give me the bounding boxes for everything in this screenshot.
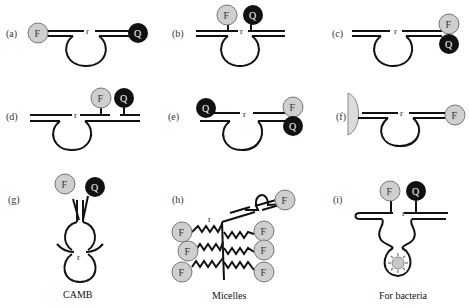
ribo-r: r (74, 110, 77, 120)
fluorophore-f: F (91, 88, 111, 108)
fluorophore-f: F (172, 262, 192, 282)
caption: Micelles (212, 290, 247, 301)
panel-h: (h) r F F F F F F F Micelles (172, 190, 295, 301)
ribo-r: r (394, 26, 397, 36)
panel-b: (b) r F Q (172, 5, 285, 66)
fluorophore-f: F (178, 241, 198, 261)
ribo-r: r (86, 26, 89, 36)
svg-text:F: F (35, 28, 41, 39)
fluorophore-f: F (55, 174, 75, 194)
quencher-q-left: Q (196, 98, 216, 118)
svg-text:F: F (185, 246, 191, 257)
svg-text:F: F (282, 195, 288, 206)
quencher-q: Q (85, 177, 105, 197)
ribo-r: r (243, 109, 246, 119)
panel-a: (a) r F Q (6, 23, 148, 66)
ribo-r: r (77, 252, 80, 262)
svg-text:F: F (224, 10, 230, 21)
panel-label: (h) (172, 194, 184, 206)
panel-g: (g) r F Q CAMB (8, 174, 105, 300)
panel-label: (c) (332, 28, 343, 40)
bacterium-icon (388, 253, 408, 273)
molecular-beacon-diagram: (a) r F Q (b) r F Q (c) r F Q (0, 0, 469, 308)
fluorophore-f: F (380, 181, 400, 201)
quencher-q-right: Q (283, 116, 303, 136)
caption: For bacteria (379, 290, 428, 301)
panel-label: (d) (6, 111, 18, 123)
svg-text:F: F (98, 93, 104, 104)
svg-text:F: F (261, 245, 267, 256)
svg-text:F: F (290, 102, 296, 113)
svg-text:F: F (387, 186, 393, 197)
quencher-q: Q (439, 34, 459, 54)
svg-text:F: F (179, 227, 185, 238)
quencher-q: Q (243, 5, 263, 25)
fluorophore-f: F (445, 105, 465, 125)
fluorophore-f: F (254, 262, 274, 282)
svg-text:F: F (261, 267, 267, 278)
gold-surface (348, 93, 359, 135)
panel-d: (d) r F Q (6, 88, 140, 150)
panel-c: (c) r F Q (332, 14, 459, 66)
svg-text:Q: Q (120, 93, 128, 104)
ribo-r: r (402, 208, 405, 218)
svg-text:F: F (446, 19, 452, 30)
caption: CAMB (63, 289, 93, 300)
svg-text:F: F (261, 226, 267, 237)
panel-label: (e) (168, 111, 179, 123)
svg-text:Q: Q (289, 121, 297, 132)
svg-text:Q: Q (202, 103, 210, 114)
fluorophore-f: F (283, 97, 303, 117)
quencher-q: Q (128, 23, 148, 43)
fluorophore-f: F (172, 222, 192, 242)
panel-i: (i) r F Q For bacteria (333, 181, 448, 301)
fluorophore-f: F (275, 190, 295, 210)
fluorophore-f: F (439, 14, 459, 34)
panel-label: (b) (172, 28, 184, 40)
svg-text:Q: Q (445, 39, 453, 50)
panel-e: (e) r Q F Q (168, 97, 303, 150)
fluorophore-f: F (217, 5, 237, 25)
ribo-r: r (208, 214, 211, 224)
fluorophore-f: F (28, 23, 48, 43)
svg-text:Q: Q (91, 182, 99, 193)
svg-text:F: F (62, 179, 68, 190)
fluorophore-f: F (254, 240, 274, 260)
panel-label: (a) (6, 28, 17, 40)
svg-text:Q: Q (134, 28, 142, 39)
panel-label: (f) (336, 111, 346, 123)
fluorophore-f: F (254, 221, 274, 241)
panel-label: (i) (333, 194, 342, 206)
panel-label: (g) (8, 194, 20, 206)
svg-text:Q: Q (412, 186, 420, 197)
ribo-r: r (240, 26, 243, 36)
svg-text:F: F (452, 110, 458, 121)
svg-text:F: F (179, 267, 185, 278)
panel-f: (f) r F (336, 93, 465, 146)
svg-text:Q: Q (249, 10, 257, 21)
quencher-q: Q (406, 181, 426, 201)
quencher-q: Q (114, 88, 134, 108)
ribo-r: r (400, 108, 403, 118)
